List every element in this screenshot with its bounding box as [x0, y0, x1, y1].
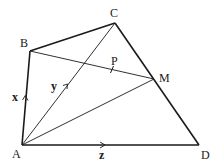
label-p: P	[111, 54, 118, 68]
label-vector-z: z	[99, 148, 105, 162]
label-a: A	[12, 147, 21, 161]
label-b: B	[20, 36, 28, 50]
label-m: M	[159, 71, 170, 85]
label-c: C	[110, 6, 118, 20]
label-d: D	[201, 148, 210, 162]
quadrilateral-diagram: A B C D M P x y z	[0, 0, 218, 167]
edge-bc	[30, 23, 115, 51]
edge-ac	[22, 23, 115, 145]
label-vector-x: x	[12, 90, 18, 104]
edge-cd	[115, 23, 199, 145]
edge-ab	[22, 51, 30, 145]
edge-bm	[30, 51, 154, 79]
label-vector-y: y	[51, 79, 57, 93]
edge-am	[22, 79, 154, 145]
